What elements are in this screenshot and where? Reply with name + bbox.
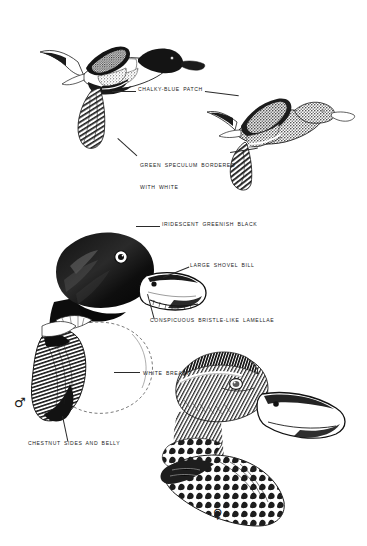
male-symbol: ♂	[14, 396, 26, 409]
label-green-speculum-line-2: WITH WHITE	[140, 184, 235, 191]
leader-iridescent	[136, 226, 160, 227]
label-conspicuous-bristle-like-lamellae: CONSPICUOUS BRISTLE-LIKE LAMELLAE	[150, 317, 274, 324]
female-symbol: ♀	[213, 507, 223, 520]
label-chestnut-sides-and-belly: CHESTNUT SIDES AND BELLY	[28, 440, 120, 447]
label-green-speculum-line-1: GREEN SPECULUM BORDERED	[140, 162, 235, 169]
label-chalky-blue-patch: CHALKY-BLUE PATCH	[138, 86, 203, 93]
figure-female-head-body	[150, 338, 365, 533]
field-guide-plate: CHALKY-BLUE PATCH GREEN SPECULUM BORDERE…	[0, 0, 367, 546]
leader-chalky-blue-left	[112, 91, 136, 92]
label-white-breast: WHITE BREAST	[143, 370, 190, 377]
leader-white-breast	[114, 372, 140, 373]
label-large-shovel-bill: LARGE SHOVEL BILL	[190, 262, 254, 269]
label-green-speculum: GREEN SPECULUM BORDERED WITH WHITE	[140, 148, 235, 206]
label-iridescent-greenish-black: IRIDESCENT GREENISH BLACK	[162, 221, 257, 228]
